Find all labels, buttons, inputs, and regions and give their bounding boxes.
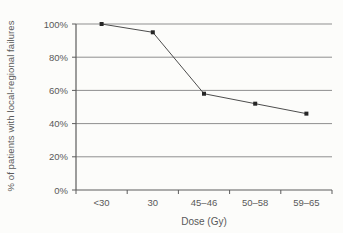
y-tick-label: 40% [34, 118, 68, 129]
x-tick-label: 30 [127, 197, 179, 208]
x-axis-title: Dose (Gy) [76, 216, 332, 227]
data-point-marker [100, 22, 104, 26]
x-tick-label: 45–46 [178, 197, 230, 208]
series-line [102, 24, 307, 114]
x-tick-label: 59–65 [280, 197, 332, 208]
x-tick-label: <30 [76, 197, 128, 208]
data-point-marker [151, 30, 155, 34]
data-point-marker [202, 92, 206, 96]
y-tick-label: 20% [34, 151, 68, 162]
x-tick-label: 50–58 [229, 197, 281, 208]
line-chart: % of patients with local-regional failur… [0, 0, 343, 233]
y-tick-label: 60% [34, 85, 68, 96]
y-tick-label: 80% [34, 52, 68, 63]
y-tick-label: 0% [34, 185, 68, 196]
data-point-marker [253, 102, 257, 106]
y-tick-label: 100% [34, 19, 68, 30]
data-point-marker [304, 112, 308, 116]
